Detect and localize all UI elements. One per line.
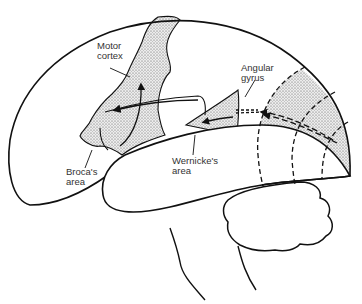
wernickes-area-label: Wernicke's area bbox=[172, 156, 218, 176]
angular-gyrus-label: Angular gyrus bbox=[241, 63, 274, 83]
brain-diagram bbox=[0, 0, 362, 304]
cerebellum bbox=[224, 182, 333, 251]
motor-cortex-label: Motor cortex bbox=[97, 41, 123, 61]
wernickes-area-label-line2: area bbox=[172, 166, 218, 176]
angular-gyrus-label-line2: gyrus bbox=[241, 73, 274, 83]
brain-stem-back bbox=[238, 246, 256, 290]
brocas-area-label-line2: area bbox=[66, 177, 97, 187]
brocas-area-label: Broca's area bbox=[66, 167, 97, 187]
motor-cortex-label-line2: cortex bbox=[97, 51, 123, 61]
brain-stem-front bbox=[170, 228, 205, 300]
